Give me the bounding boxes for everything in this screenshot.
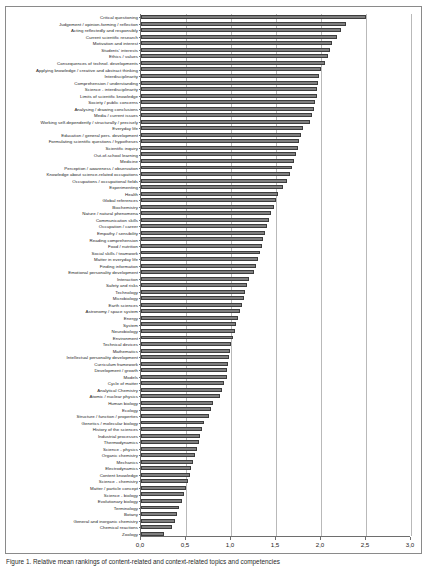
bar xyxy=(141,192,278,196)
category-label: Comprehension / understanding xyxy=(74,80,138,85)
bar-row: Health xyxy=(141,191,410,198)
bar xyxy=(141,87,317,91)
x-tick-label: 2,0 xyxy=(316,541,325,548)
category-label: Science - interdisciplinarity xyxy=(85,87,138,92)
x-tick-label: 0,0 xyxy=(136,541,145,548)
category-label: Chemical reactions xyxy=(100,525,138,530)
category-label: Global references xyxy=(103,198,138,203)
category-label: Zoology xyxy=(122,531,138,536)
bar xyxy=(141,126,303,130)
category-label: Out-of-school learning xyxy=(94,152,138,157)
bar-row: Analysing / drawing conclusions xyxy=(141,106,410,113)
bar xyxy=(141,447,197,451)
bar xyxy=(141,139,299,143)
bar-row: Evolutionary biology xyxy=(141,498,410,505)
category-label: Motivation and interest xyxy=(93,41,138,46)
category-label: Interaction xyxy=(117,276,138,281)
bar-row: Human biology xyxy=(141,400,410,407)
bar xyxy=(141,120,310,124)
category-label: Interdisciplinarity xyxy=(104,74,138,79)
bar xyxy=(141,113,312,117)
bar xyxy=(141,231,265,235)
bar-row: System xyxy=(141,321,410,328)
bar xyxy=(141,81,318,85)
bar xyxy=(141,394,220,398)
category-label: Genetics / molecular biology xyxy=(82,420,138,425)
bar-row: Technology xyxy=(141,289,410,296)
category-label: Atomic / nuclear physics xyxy=(90,394,138,399)
bar xyxy=(141,257,258,261)
category-label: Science - chemistry xyxy=(99,479,138,484)
bar-row: Medicine xyxy=(141,158,410,165)
bar-row: Interdisciplinarity xyxy=(141,73,410,80)
bar xyxy=(141,185,283,189)
bar xyxy=(141,466,191,470)
category-label: Medicine xyxy=(120,159,138,164)
x-tick-label: 3,0 xyxy=(406,541,415,548)
bar xyxy=(141,414,209,418)
category-label: Nature / natural phenomena xyxy=(82,211,138,216)
bar xyxy=(141,375,227,379)
bar-row: Organic chemistry xyxy=(141,452,410,459)
bar xyxy=(141,460,193,464)
category-label: Human biology xyxy=(108,400,138,405)
bar xyxy=(141,264,256,268)
category-label: Safety and risks xyxy=(106,283,138,288)
category-label: Food / nutrition xyxy=(108,244,138,249)
bar xyxy=(141,172,290,176)
figure-container: Critical questioningJudgement / opinion-… xyxy=(0,0,428,569)
bar xyxy=(141,54,328,58)
bar xyxy=(141,407,211,411)
bar xyxy=(141,427,202,431)
bar xyxy=(141,28,341,32)
bar xyxy=(141,388,222,392)
bar-row: Knowledge about science-related occupati… xyxy=(141,171,410,178)
bar xyxy=(141,198,276,202)
category-label: Students' interests xyxy=(101,47,138,52)
category-label: Acting reflectedly and responsibly xyxy=(71,28,138,33)
bar xyxy=(141,336,233,340)
bar xyxy=(141,401,213,405)
category-label: Structure / function / properties xyxy=(77,414,139,419)
category-label: Scientific inquiry xyxy=(105,146,138,151)
category-label: Earth sciences xyxy=(109,302,138,307)
bar-row: Zoology xyxy=(141,530,410,537)
bar xyxy=(141,15,366,19)
category-label: Microbiology xyxy=(113,296,138,301)
bar xyxy=(141,211,271,215)
bar xyxy=(141,283,247,287)
category-label: General and inorganic chemistry xyxy=(73,518,138,523)
bar-row: Biochemistry xyxy=(141,204,410,211)
category-label: Society / public concerns xyxy=(88,100,138,105)
bar xyxy=(141,146,298,150)
bar xyxy=(141,48,330,52)
category-label: Judgement / opinion-forming / reflection xyxy=(59,21,138,26)
category-label: Knowledge about science-related occupati… xyxy=(47,172,138,177)
bar xyxy=(141,277,249,281)
bar xyxy=(141,166,292,170)
bar xyxy=(141,22,346,26)
bar-rows: Critical questioningJudgement / opinion-… xyxy=(141,14,410,536)
category-label: Perception / awareness / observation xyxy=(64,165,138,170)
category-label: Curriculum framework xyxy=(94,361,138,366)
bar xyxy=(141,133,301,137)
category-label: Analytical Chemistry xyxy=(97,387,138,392)
bar xyxy=(141,322,236,326)
category-label: Neurobiology xyxy=(112,329,138,334)
bar xyxy=(141,237,263,241)
bar xyxy=(141,100,315,104)
category-label: Experimenting xyxy=(109,185,138,190)
x-tick-label: 2,5 xyxy=(361,541,370,548)
bar xyxy=(141,519,175,523)
category-label: Media / current issues xyxy=(94,113,138,118)
x-tick-label: 1,0 xyxy=(226,541,235,548)
x-tick-label: 1,5 xyxy=(271,541,280,548)
category-label: System xyxy=(123,322,138,327)
category-label: Astronomy / space system xyxy=(85,309,138,314)
category-label: Social skills / teamwork xyxy=(92,250,138,255)
category-label: Reading comprehension xyxy=(89,237,138,242)
bar xyxy=(141,440,199,444)
x-tick-mark xyxy=(140,537,141,540)
bar xyxy=(141,421,204,425)
category-label: Thermodynamics xyxy=(104,440,138,445)
